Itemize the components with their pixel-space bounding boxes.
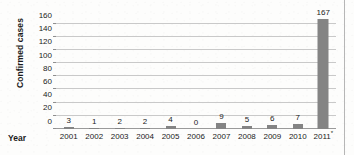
plot-area: 020406080100120140160 3122409567167: [56, 17, 336, 129]
bar[interactable]: [64, 127, 74, 129]
bar-value-label: 7: [296, 113, 300, 122]
x-axis-tick-label: 2006: [183, 132, 208, 141]
x-axis-tick-label: 2004: [132, 132, 157, 141]
bar-slot[interactable]: 0: [183, 17, 208, 129]
bar-value-label: 2: [143, 117, 147, 126]
x-axis-tick-label: 2007: [209, 132, 234, 141]
bar-slot[interactable]: 6: [260, 17, 285, 129]
x-axis-title: Year: [8, 133, 26, 143]
bar[interactable]: [242, 126, 252, 129]
bar-slot[interactable]: 2: [107, 17, 132, 129]
bar-slot[interactable]: 5: [234, 17, 259, 129]
bar-value-label: 6: [270, 114, 274, 123]
y-axis-tick-label: 120: [39, 37, 52, 46]
bar-value-label: 9: [219, 112, 223, 121]
footnote-marker: *: [331, 130, 333, 136]
x-axis-tick-label: 2009: [260, 132, 285, 141]
bar[interactable]: [293, 124, 303, 129]
y-axis-tick-label: 160: [39, 11, 52, 20]
y-axis-tick-label: 80: [43, 63, 52, 72]
x-axis-tick-label: 2011*: [311, 132, 336, 141]
bar-value-label: 3: [66, 116, 70, 125]
bar-value-label: 1: [92, 117, 96, 126]
x-axis-tick-label: 2010: [285, 132, 310, 141]
x-axis-tick-label: 2005: [158, 132, 183, 141]
bar[interactable]: [216, 123, 226, 129]
bar[interactable]: [267, 125, 277, 129]
y-axis-tick-label: 140: [39, 24, 52, 33]
bar-chart-figure: Confirmed cases Year 0204060801001201401…: [0, 0, 354, 155]
bar[interactable]: [115, 128, 125, 129]
bar-slot[interactable]: 167: [311, 17, 336, 129]
y-axis-title: Confirmed cases: [15, 3, 25, 103]
bar-slot[interactable]: 1: [81, 17, 106, 129]
x-axis-tick-label: 2008: [234, 132, 259, 141]
bar-value-label: 5: [245, 115, 249, 124]
page-frame-rule: [344, 0, 345, 155]
bar[interactable]: [89, 128, 99, 129]
bar-slot[interactable]: 7: [285, 17, 310, 129]
bar-slot[interactable]: 3: [56, 17, 81, 129]
y-axis-tick-label: 60: [43, 76, 52, 85]
y-axis-tick-label: 20: [43, 103, 52, 112]
x-axis-tick-labels: 2001200220032004200520062007200820092010…: [56, 132, 336, 146]
x-axis-tick-label: 2002: [81, 132, 106, 141]
x-axis-tick-label: 2001: [56, 132, 81, 141]
bar[interactable]: [318, 19, 329, 129]
bar-slot[interactable]: 2: [132, 17, 157, 129]
y-axis-tick-label: 0: [48, 116, 52, 125]
bar-value-label: 167: [317, 8, 330, 17]
x-axis-tick-label: 2003: [107, 132, 132, 141]
bar-slot[interactable]: 9: [209, 17, 234, 129]
bar[interactable]: [166, 126, 176, 129]
bar-value-label: 2: [117, 117, 121, 126]
y-axis-tick-label: 100: [39, 50, 52, 59]
bar-slot[interactable]: 4: [158, 17, 183, 129]
y-axis-tick-label: 40: [43, 90, 52, 99]
bar-value-label: 4: [168, 115, 172, 124]
bar[interactable]: [140, 128, 150, 129]
bar-value-label: 0: [194, 118, 198, 127]
